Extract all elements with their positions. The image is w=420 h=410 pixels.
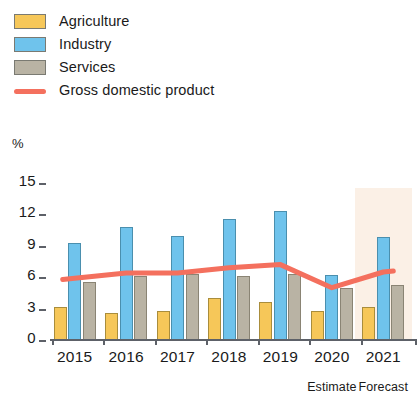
y-axis-tick-mark — [39, 183, 46, 185]
x-axis-label-2020: 2020 — [307, 348, 357, 366]
y-axis-tick-mark — [39, 246, 46, 248]
legend-item-industry: Industry — [14, 33, 264, 56]
x-axis-label-2017: 2017 — [153, 348, 203, 366]
y-axis-tick-label: 9 — [27, 235, 36, 252]
legend-label: Services — [59, 60, 115, 75]
y-axis-unit-label: % — [12, 136, 24, 151]
y-axis-tick-label: 6 — [27, 266, 36, 283]
y-axis-tick-0: 0 — [0, 329, 46, 346]
x-axis-tick-mark-4 — [258, 339, 260, 345]
gdp-line-series — [52, 176, 412, 340]
x-axis-tick-mark-0 — [52, 339, 54, 345]
y-axis-tick-label: 12 — [19, 203, 36, 220]
y-axis-tick-label: 3 — [27, 298, 36, 315]
x-axis-note-forecast: Forecast — [353, 380, 413, 394]
gdp-line-swatch — [14, 89, 46, 94]
legend-item-services: Services — [14, 56, 264, 79]
x-axis-tick-mark-5 — [309, 339, 311, 345]
x-axis-label-2018: 2018 — [204, 348, 254, 366]
y-axis-tick-mark — [39, 214, 46, 216]
legend-label: Industry — [59, 37, 111, 52]
y-axis-tick-label: 15 — [19, 172, 36, 189]
y-axis-tick-mark — [39, 340, 46, 342]
x-axis-label-2015: 2015 — [50, 348, 100, 366]
gdp-sector-growth-chart: AgricultureIndustryServicesGross domesti… — [0, 0, 420, 410]
x-axis-tick-mark-3 — [206, 339, 208, 345]
legend-item-gross-domestic-product: Gross domestic product — [14, 79, 264, 102]
y-axis-tick-label: 0 — [27, 329, 36, 346]
x-axis-tick-mark-end — [415, 339, 417, 345]
x-axis-tick-mark-2 — [155, 339, 157, 345]
agriculture-swatch — [14, 14, 46, 29]
legend-label: Gross domestic product — [59, 83, 214, 98]
x-axis-tick-mark-1 — [103, 339, 105, 345]
chart-legend: AgricultureIndustryServicesGross domesti… — [14, 10, 264, 102]
legend-item-agriculture: Agriculture — [14, 10, 264, 33]
x-axis-label-2019: 2019 — [255, 348, 305, 366]
y-axis-tick-mark — [39, 277, 46, 279]
industry-swatch — [14, 37, 46, 52]
x-axis-label-2016: 2016 — [101, 348, 151, 366]
x-axis-label-2021: 2021 — [358, 348, 408, 366]
y-axis-tick-15: 15 — [0, 172, 46, 189]
plot-area — [52, 176, 412, 340]
y-axis-tick-9: 9 — [0, 235, 46, 252]
y-axis-tick-12: 12 — [0, 203, 46, 220]
legend-label: Agriculture — [59, 14, 129, 29]
services-swatch — [14, 60, 46, 75]
y-axis-tick-mark — [39, 309, 46, 311]
y-axis-tick-3: 3 — [0, 298, 46, 315]
y-axis-tick-6: 6 — [0, 266, 46, 283]
x-axis-tick-mark-6 — [361, 339, 363, 345]
